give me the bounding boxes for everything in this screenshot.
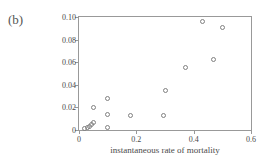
y-tick-label: 0 xyxy=(72,126,76,135)
y-tick-label: 0.10 xyxy=(62,13,76,22)
data-point xyxy=(105,112,110,117)
plot-inner xyxy=(79,17,251,130)
data-point xyxy=(183,65,188,70)
plot-area: 00.020.040.060.080.1000.20.40.6 xyxy=(78,16,252,131)
data-point xyxy=(211,57,216,62)
data-point xyxy=(91,120,96,125)
data-point xyxy=(105,125,110,130)
x-tick-mark xyxy=(194,130,195,134)
y-tick-label: 0.06 xyxy=(62,58,76,67)
data-point xyxy=(200,19,205,24)
panel-label: (b) xyxy=(8,12,23,28)
data-point xyxy=(161,113,166,118)
x-tick-mark xyxy=(79,130,80,134)
data-point xyxy=(91,105,96,110)
x-tick-label: 0 xyxy=(77,135,81,144)
data-point xyxy=(105,96,110,101)
y-tick-label: 0.02 xyxy=(62,103,76,112)
x-tick-mark xyxy=(136,130,137,134)
y-tick-label: 0.04 xyxy=(62,80,76,89)
x-tick-mark xyxy=(251,130,252,134)
x-tick-label: 0.6 xyxy=(246,135,256,144)
data-point xyxy=(128,113,133,118)
data-point xyxy=(220,25,225,30)
chart-figure: (b) rate of mortality senescence 00.020.… xyxy=(0,0,269,164)
data-point xyxy=(163,88,168,93)
x-axis-title: instantaneous rate of mortality xyxy=(78,145,252,155)
x-tick-label: 0.2 xyxy=(131,135,141,144)
y-tick-label: 0.08 xyxy=(62,35,76,44)
x-tick-label: 0.4 xyxy=(189,135,199,144)
